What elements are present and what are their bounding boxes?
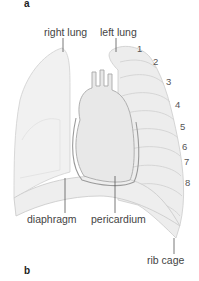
rib-number-8: 8	[185, 178, 190, 188]
label-right-lung: right lung	[44, 27, 87, 38]
rib-number-1: 1	[137, 44, 142, 54]
rib-number-2: 2	[153, 57, 158, 67]
right-lung-shape	[14, 48, 70, 198]
rib-number-5: 5	[180, 122, 185, 132]
label-diaphragm: diaphragm	[27, 214, 77, 225]
panel-label-b: b	[24, 265, 30, 276]
rib-number-4: 4	[175, 100, 180, 110]
label-pericardium: pericardium	[91, 214, 146, 225]
thorax-illustration	[0, 0, 199, 281]
rib-number-3: 3	[166, 77, 171, 87]
rib-number-7: 7	[184, 157, 189, 167]
rib-number-6: 6	[182, 142, 187, 152]
label-rib-cage: rib cage	[147, 255, 184, 266]
label-left-lung: left lung	[100, 27, 137, 38]
